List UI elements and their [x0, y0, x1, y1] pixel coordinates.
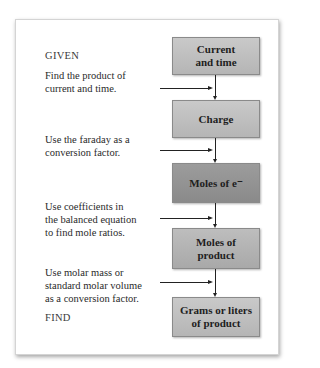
arrow-connector: [160, 150, 210, 151]
box-grams-or-liters: Grams or liters of product: [172, 297, 260, 337]
arrow-right-icon: [208, 216, 213, 220]
find-label: FIND: [45, 312, 71, 323]
box-moles-of-electrons: Moles of e⁻: [172, 163, 260, 203]
arrow-connector: [215, 138, 216, 159]
arrow-connector: [160, 218, 210, 219]
arrow-connector: [160, 88, 210, 89]
arrow-right-icon: [208, 280, 213, 284]
arrow-connector: [215, 203, 216, 224]
arrow-connector: [160, 282, 210, 283]
arrow-connector: [215, 75, 216, 96]
arrow-right-icon: [208, 148, 213, 152]
arrow-connector: [215, 269, 216, 293]
step-1-note: Find the product of current and time.: [45, 69, 126, 95]
box-current-and-time: Current and time: [172, 37, 260, 75]
step-4-note: Use molar mass or standard molar volume …: [45, 266, 142, 305]
arrow-right-icon: [208, 86, 213, 90]
box-charge: Charge: [172, 100, 260, 138]
given-label: GIVEN: [45, 50, 79, 61]
step-2-note: Use the faraday as a conversion factor.: [45, 133, 130, 159]
box-moles-of-product: Moles of product: [172, 228, 260, 269]
step-3-note: Use coefficients in the balanced equatio…: [45, 200, 137, 239]
